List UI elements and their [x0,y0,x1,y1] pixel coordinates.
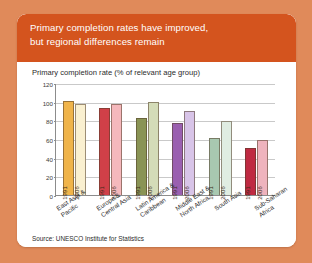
y-tick-label: 120 [43,81,53,88]
bar[interactable]: 1991 [136,118,147,195]
y-tick-mark [54,196,57,197]
bar-group: 19912006 [245,84,268,195]
bar[interactable]: 1991 [245,148,256,195]
bar[interactable]: 2006 [111,104,122,195]
bar[interactable]: 2006 [221,121,232,195]
bar-year-label: 1991 [245,186,251,200]
bar-group: 19912006 [99,84,122,195]
y-tick-label: 80 [46,118,53,125]
bar[interactable]: 1991 [63,101,74,195]
headline-line-1: Primary completion rates have improved, [30,21,283,35]
headline-line-2: but regional differences remain [30,35,283,49]
bar[interactable]: 1991 [209,138,220,195]
y-tick-label: 0 [50,193,53,200]
bar[interactable]: 1991 [99,108,110,195]
bar-year-label: 1991 [99,186,105,200]
bar[interactable]: 2006 [75,104,86,195]
bar[interactable]: 2006 [184,111,195,195]
bar-year-label: 2006 [257,186,263,200]
bar-group: 19912006 [63,84,86,195]
bar-group: 19912006 [172,84,195,195]
bar-year-label: 1991 [135,186,141,200]
chart-body: Primary completion rate (% of relevant a… [17,62,296,247]
bar[interactable]: 2006 [148,102,159,195]
y-tick-label: 20 [46,174,53,181]
plot-wrapper: 020406080100120 199120061991200619912006… [29,84,281,202]
bar[interactable]: 2006 [257,140,268,195]
y-tick-label: 60 [46,137,53,144]
bar-group: 19912006 [136,84,159,195]
y-tick-label: 40 [46,155,53,162]
bar-group: 19912006 [209,84,232,195]
bar-groups: 1991200619912006199120061991200619912006… [56,84,275,195]
plot-area: 020406080100120 199120061991200619912006… [55,84,275,196]
y-tick-label: 100 [43,99,53,106]
chart-axis-title: Primary completion rate (% of relevant a… [32,68,200,77]
page-root: Primary completion rates have improved, … [0,0,312,263]
chart-card: Primary completion rates have improved, … [17,14,296,247]
source-note: Source: UNESCO Institute for Statistics [32,235,144,242]
card-header: Primary completion rates have improved, … [17,14,296,62]
